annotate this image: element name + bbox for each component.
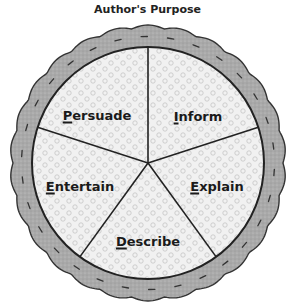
slice-label-persuade: Persuade <box>63 108 132 123</box>
label-rest: nform <box>179 109 223 124</box>
label-rest: ersuade <box>72 108 131 123</box>
slice-label-entertain: Entertain <box>46 179 114 194</box>
pie-diagram <box>0 0 295 308</box>
slice-label-inform: Inform <box>174 109 223 124</box>
slice-label-describe: Describe <box>116 234 180 249</box>
label-rest: escribe <box>127 234 180 249</box>
crust-dash <box>22 177 23 183</box>
label-initial: E <box>46 179 55 194</box>
label-initial: E <box>190 179 199 194</box>
crust-dash <box>273 143 274 149</box>
label-rest: ntertain <box>55 179 114 194</box>
label-rest: xplain <box>199 179 244 194</box>
label-initial: P <box>63 108 73 123</box>
label-initial: D <box>116 234 127 249</box>
slice-label-explain: Explain <box>190 179 244 194</box>
